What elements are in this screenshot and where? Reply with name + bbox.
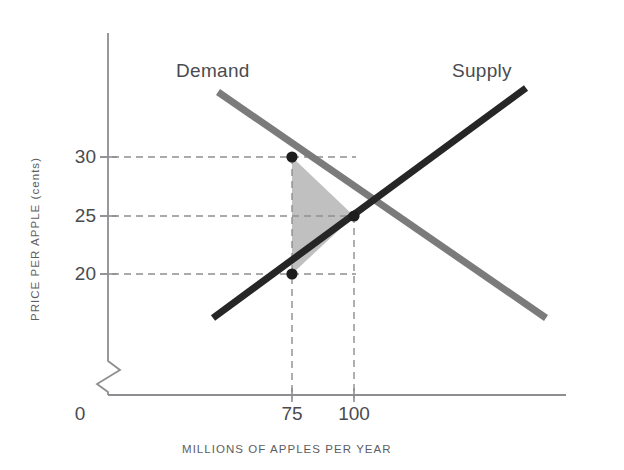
y-tick-label-30: 30 [62, 146, 96, 168]
y-axis-break-icon [97, 356, 120, 395]
y-tick-label-25: 25 [62, 205, 96, 227]
x-axis-title: MILLIONS OF APPLES PER YEAR [182, 443, 392, 455]
x-tick-label-100: 100 [329, 403, 379, 425]
x-tick-label-0: 0 [66, 403, 94, 425]
demand-curve [218, 92, 546, 318]
x-tick-label-75: 75 [272, 403, 312, 425]
chart-plot-area [0, 0, 624, 470]
demand-curve-label: Demand [176, 60, 250, 82]
supply-curve-label: Supply [452, 60, 512, 82]
supply-demand-chart-figure: Demand Supply 30 25 20 0 75 100 MILLIONS… [0, 0, 624, 470]
data-point-equilibrium-100-25 [348, 210, 359, 221]
data-point-supply-75-20 [286, 268, 297, 279]
y-tick-label-20: 20 [62, 263, 96, 285]
data-point-demand-75-30 [286, 151, 297, 162]
y-axis-title: PRICE PER APPLE (cents) [29, 141, 41, 337]
